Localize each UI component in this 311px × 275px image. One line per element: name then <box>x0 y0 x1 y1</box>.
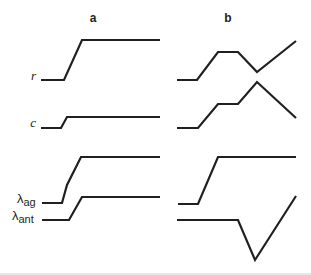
panel-label-a: a <box>90 11 97 25</box>
curve-a-r <box>41 40 160 80</box>
curve-a-c <box>41 117 160 128</box>
row-label-lambda-ag: λag <box>17 191 36 208</box>
curve-a-lambda-ant <box>42 197 160 220</box>
curve-b-lambda-ant <box>177 196 296 260</box>
row-label-r: r <box>31 68 37 83</box>
diagram-canvas: a b r c λag λant <box>0 0 311 275</box>
curve-b-c <box>177 82 296 128</box>
curve-b-r <box>177 41 296 80</box>
curve-b-lambda-ag <box>178 157 296 204</box>
lambda-ag-subscript: ag <box>24 196 36 208</box>
panel-label-b: b <box>224 11 231 25</box>
row-label-c: c <box>30 115 36 130</box>
row-label-lambda-ant: λant <box>12 208 34 225</box>
lambda-ant-subscript: ant <box>19 213 34 225</box>
